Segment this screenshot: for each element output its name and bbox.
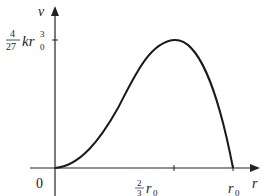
peak-label-sub: 0 bbox=[40, 42, 45, 52]
peak-label-num: 4 bbox=[10, 28, 15, 39]
peak-label-kr: kr bbox=[22, 33, 35, 49]
y-axis-arrow-icon bbox=[51, 6, 59, 16]
xtick2-r: r bbox=[228, 181, 234, 196]
xtick1-num: 2 bbox=[137, 178, 142, 188]
chart: v r 0 4 27 kr 3 0 2 3 r 0 r 0 bbox=[0, 0, 261, 196]
xtick2-sub: 0 bbox=[235, 188, 240, 196]
curve bbox=[55, 40, 233, 168]
xtick1-sub: 0 bbox=[153, 188, 158, 196]
y-axis-label: v bbox=[38, 4, 45, 19]
x-axis-label: r bbox=[252, 176, 258, 191]
xtick1-r: r bbox=[146, 181, 152, 196]
peak-label-den: 27 bbox=[6, 41, 16, 52]
xtick1-den: 3 bbox=[137, 188, 142, 196]
origin-label: 0 bbox=[36, 176, 43, 191]
x-axis-arrow-icon bbox=[250, 164, 260, 172]
peak-label-sup: 3 bbox=[40, 29, 45, 39]
